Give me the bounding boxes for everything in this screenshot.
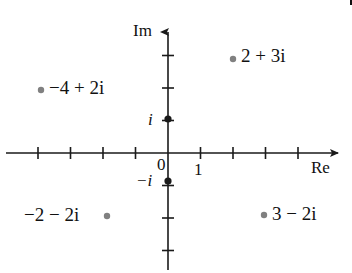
axis-lines	[6, 32, 338, 270]
label-point-3-minus-2i: 3 − 2i	[272, 204, 317, 223]
label-point-minus2-minus-2i: −2 − 2i	[24, 205, 79, 224]
point-2-plus-3i	[230, 56, 236, 62]
minus-i-tick-label: −i	[136, 172, 152, 189]
complex-plane-figure: Im Re 0 1 i −i 2 + 3i −4 + 2i −2 − 2i 3 …	[0, 0, 352, 273]
corner-mark	[330, 0, 352, 5]
point-3-minus-2i	[261, 212, 267, 218]
point-i	[164, 115, 171, 122]
label-point-2-plus-3i: 2 + 3i	[241, 46, 286, 65]
point-minus-i	[164, 177, 171, 184]
one-tick-label: 1	[194, 161, 203, 178]
real-axis-label: Re	[311, 159, 330, 176]
label-point-minus4-plus-2i: −4 + 2i	[49, 78, 104, 97]
complex-plane-canvas	[0, 0, 352, 273]
point-minus2-minus-2i	[104, 213, 110, 219]
i-tick-label: i	[148, 111, 153, 128]
imaginary-axis-label: Im	[133, 22, 152, 39]
point-minus4-plus-2i	[38, 87, 44, 93]
origin-label: 0	[157, 156, 166, 173]
